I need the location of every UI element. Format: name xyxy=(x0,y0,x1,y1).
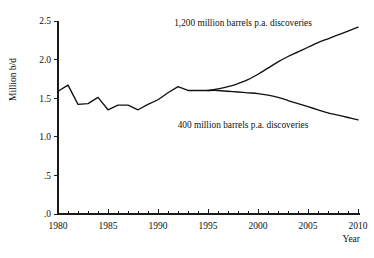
x-tick-label: 1990 xyxy=(149,221,168,231)
data-series-group xyxy=(58,27,358,120)
x-tick-label: 1995 xyxy=(199,221,218,231)
y-tick-label: .5 xyxy=(44,171,51,181)
y-tick-label: 2.0 xyxy=(39,55,51,65)
y-axis: .0.51.01.52.02.5 xyxy=(39,16,58,219)
x-axis: 1980198519901995200020052010 xyxy=(49,209,368,231)
x-axis-title: Year xyxy=(342,234,360,244)
series-annotation-high: 1,200 million barrels p.a. discoveries xyxy=(174,18,312,28)
y-tick-label: 2.5 xyxy=(39,16,51,26)
y-tick-label: .0 xyxy=(44,209,51,219)
axis-labels-group: Million b/dYear xyxy=(8,58,361,244)
series-annotation-low: 400 million barrels p.a. discoveries xyxy=(178,120,309,130)
series-line-low-discoveries xyxy=(208,90,358,119)
y-tick-label: 1.0 xyxy=(39,132,51,142)
y-axis-title: Million b/d xyxy=(8,58,18,101)
y-tick-label: 1.5 xyxy=(39,94,51,104)
annotations-group: 1,200 million barrels p.a. discoveries40… xyxy=(174,18,312,130)
x-tick-label: 1985 xyxy=(99,221,118,231)
x-tick-label: 1980 xyxy=(49,221,68,231)
x-tick-label: 2000 xyxy=(249,221,268,231)
line-chart: .0.51.01.52.02.5 19801985199019952000200… xyxy=(0,0,374,258)
x-tick-label: 2010 xyxy=(349,221,368,231)
series-line-historical xyxy=(58,85,208,110)
chart-figure: .0.51.01.52.02.5 19801985199019952000200… xyxy=(0,0,374,258)
x-tick-label: 2005 xyxy=(299,221,318,231)
series-line-high-discoveries xyxy=(208,27,358,90)
